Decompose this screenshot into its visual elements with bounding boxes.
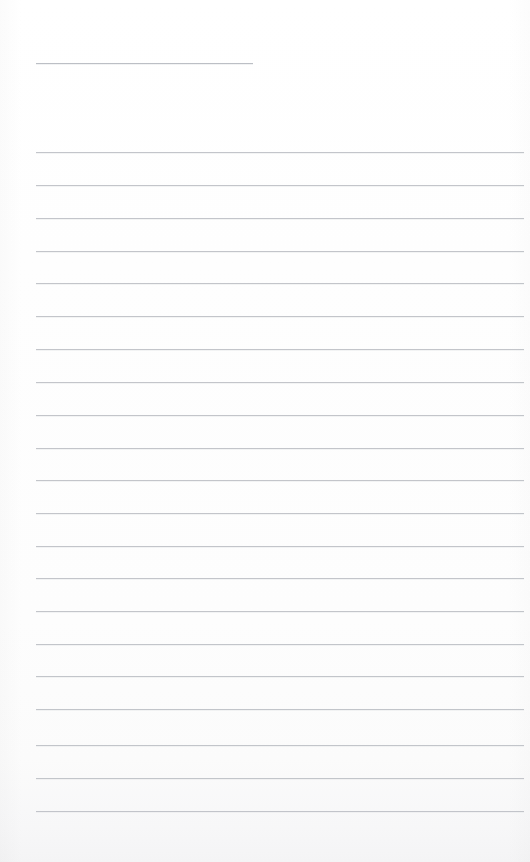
rule-line-18	[36, 709, 524, 710]
rule-line-10	[36, 448, 524, 449]
rule-line-2	[36, 185, 524, 186]
rule-line-16	[36, 644, 524, 645]
rule-line-9	[36, 415, 524, 416]
rule-line-1	[36, 152, 524, 153]
lined-page	[0, 0, 530, 862]
rule-line-17	[36, 676, 524, 677]
rule-line-21	[36, 811, 524, 812]
title-rule-line	[36, 63, 253, 64]
rule-lines-group	[0, 0, 530, 862]
rule-line-7	[36, 349, 524, 350]
rule-line-11	[36, 480, 524, 481]
rule-line-3	[36, 218, 524, 219]
rule-line-4	[36, 251, 524, 252]
rule-line-8	[36, 382, 524, 383]
rule-line-14	[36, 578, 524, 579]
rule-line-19	[36, 745, 524, 746]
rule-line-6	[36, 316, 524, 317]
rule-line-12	[36, 513, 524, 514]
rule-line-5	[36, 283, 524, 284]
rule-line-20	[36, 778, 524, 779]
rule-line-13	[36, 546, 524, 547]
rule-line-15	[36, 611, 524, 612]
